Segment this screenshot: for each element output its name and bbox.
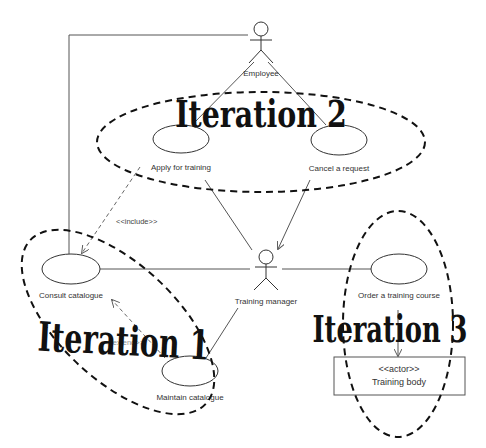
label-consult-catalogue: Consult catalogue bbox=[39, 291, 104, 300]
iteration-3-label: Iteration 3 bbox=[312, 307, 467, 350]
label-training-manager: Training manager bbox=[235, 297, 298, 306]
label-include: <<include>> bbox=[116, 217, 158, 226]
actor-employee[interactable] bbox=[249, 22, 273, 63]
training-body-name: Training body bbox=[372, 377, 427, 387]
label-employee: Employee bbox=[243, 69, 279, 78]
assoc-manager-maintain bbox=[206, 308, 238, 358]
actor-training-manager[interactable] bbox=[254, 250, 278, 290]
label-order-training-course: Order a training course bbox=[358, 291, 440, 300]
actor-head-icon bbox=[259, 250, 273, 264]
label-maintain-catalogue: Maintain catalogue bbox=[156, 393, 224, 402]
iteration-2-label: Iteration 2 bbox=[175, 92, 347, 136]
iteration-1-label: Iteration 1 bbox=[37, 312, 211, 368]
label-apply-for-training: Apply for training bbox=[151, 163, 211, 172]
actor-head-icon bbox=[254, 22, 268, 36]
usecase-order-training-course[interactable] bbox=[371, 254, 427, 284]
use-case-diagram: Apply for training Cancel a request Cons… bbox=[0, 0, 486, 448]
iteration-labels: Iteration 2 Iteration 1 Iteration 3 bbox=[37, 92, 468, 369]
include-dependency bbox=[82, 167, 140, 253]
training-body-stereotype: <<actor>> bbox=[378, 364, 419, 374]
usecase-consult-catalogue[interactable] bbox=[42, 254, 100, 284]
label-cancel-request: Cancel a request bbox=[309, 164, 370, 173]
